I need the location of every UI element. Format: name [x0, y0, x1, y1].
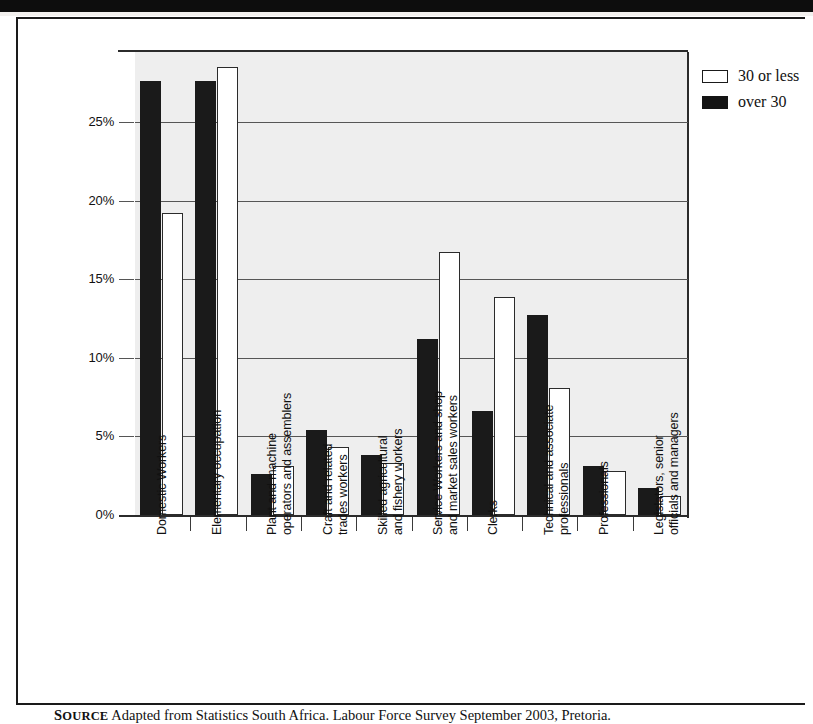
bar-30-or-less [494, 297, 515, 516]
category-label-line: officials and managers [667, 412, 682, 535]
category-label: Legislators, seniorofficials and manager… [652, 412, 681, 535]
x-axis-tick [577, 517, 578, 531]
category-label-line: professionals [556, 405, 571, 535]
source-kicker-smallcaps: OURCE [62, 709, 108, 723]
category-label-line: Domestic Workers [155, 435, 169, 535]
category-label-line: Elementary occupation [210, 410, 224, 535]
category-label-line: Craft and related [321, 444, 335, 535]
x-axis-tick [356, 517, 357, 531]
bars-layer [18, 51, 718, 515]
category-label: Professionals [597, 461, 612, 535]
chart-legend: 30 or less over 30 [702, 63, 813, 115]
category-label: Plant and machineoperators and assembler… [265, 393, 294, 535]
category-label: Domestic Workers [155, 435, 170, 535]
category-label-line: Service Workers and shop [431, 391, 445, 535]
x-axis-tick [190, 517, 191, 531]
x-axis-tick [412, 517, 413, 531]
black-square-icon [702, 96, 728, 109]
figure-frame: 0%5%10%15%20%25% Domestic WorkersElement… [16, 17, 805, 705]
category-label-line: Legislators, senior [652, 435, 666, 535]
category-label: Service Workers and shopand market sales… [431, 391, 460, 535]
white-square-icon [702, 70, 728, 83]
category-label-line: and fishery workers [390, 429, 405, 535]
x-axis-tick [467, 517, 468, 531]
page-band-shadow [0, 12, 813, 16]
category-label-line: operators and assemblers [280, 393, 295, 535]
x-axis-tick [301, 517, 302, 531]
legend-item-30-or-less: 30 or less [702, 63, 813, 89]
category-label: Technical and associateprofessionals [542, 405, 571, 535]
category-label-line: Skilled agricultural [376, 436, 390, 535]
category-label-line: Plant and machine [265, 433, 279, 535]
x-axis-tick [246, 517, 247, 531]
x-axis-tick [522, 517, 523, 531]
category-label-line: Clerks [486, 500, 500, 535]
category-label: Elementary occupation [210, 410, 225, 535]
category-label-line: and market sales workers [446, 391, 461, 535]
category-label: Clerks [486, 500, 501, 535]
source-text: Adapted from Statistics South Africa. La… [108, 707, 611, 723]
legend-label: over 30 [738, 93, 786, 111]
legend-label: 30 or less [738, 67, 799, 85]
category-label-line: Technical and associate [542, 405, 556, 535]
x-axis-tick [633, 517, 634, 531]
source-note: SOURCE Adapted from Statistics South Afr… [54, 707, 813, 724]
category-label-line: Professionals [597, 461, 611, 535]
category-label: Craft and relatedtrades workers [321, 444, 350, 535]
cropped-page-band [0, 0, 813, 12]
category-label: Skilled agriculturaland fishery workers [376, 429, 405, 535]
legend-item-over-30: over 30 [702, 89, 813, 115]
category-label-line: trades workers [335, 444, 350, 535]
source-kicker: SOURCE [54, 709, 108, 723]
